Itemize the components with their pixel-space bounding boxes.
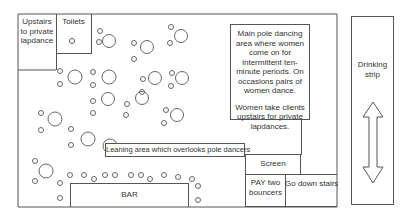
drinking-strip: Drinking strip (351, 16, 394, 205)
screen-area: Screen (245, 154, 301, 175)
main-area-lapdance-note: Women take clients upstairs for private … (233, 103, 307, 132)
screen-label: Screen (246, 155, 300, 173)
bar-label: BAR (71, 184, 188, 200)
main-pole-dancing-area: Main pole dancing area where women come … (230, 24, 310, 120)
pay-bouncers-label: PAY two bouncers (246, 175, 285, 197)
leaning-area: Leaning area which overlooks pole dancer… (105, 143, 245, 157)
toilets-label: Toilets (56, 14, 91, 27)
divider (301, 120, 302, 155)
pay-bouncers-area[interactable]: PAY two bouncers (245, 174, 286, 207)
upstairs-area: Upstairs to private lapdance (18, 14, 57, 70)
toilets-area: Toilets (56, 14, 92, 54)
leaning-area-label: Leaning area which overlooks pole dancer… (106, 144, 244, 156)
go-down-stairs-area[interactable]: Go down stairs (285, 174, 337, 207)
double-arrow-vertical-icon (352, 17, 395, 206)
bar-counter: BAR (70, 183, 189, 207)
main-area-description: Main pole dancing area where women come … (233, 29, 307, 96)
go-down-stairs-label: Go down stairs (285, 175, 337, 189)
upstairs-label: Upstairs to private lapdance (18, 14, 56, 46)
